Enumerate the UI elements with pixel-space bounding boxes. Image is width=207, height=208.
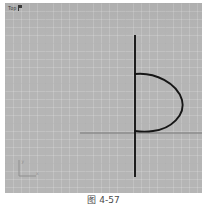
viewport-menu-marker-icon[interactable] — [18, 5, 22, 11]
cad-viewport[interactable]: Top y x — [5, 3, 202, 193]
figure-container: Top y x 图 4-57 — [0, 0, 207, 208]
viewport-label[interactable]: Top — [8, 5, 22, 11]
viewport-label-text: Top — [8, 5, 16, 11]
tripod-x-label: x — [36, 171, 39, 176]
revolve-profile-arc[interactable] — [135, 74, 183, 132]
world-axis-tripod: y x — [15, 157, 41, 181]
figure-caption: 图 4-57 — [0, 194, 207, 206]
tripod-y-label: y — [22, 159, 25, 164]
